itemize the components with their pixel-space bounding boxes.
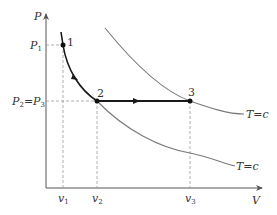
guide-lines <box>46 45 190 188</box>
point-1 <box>61 43 66 48</box>
point-3 <box>188 99 193 104</box>
x-axis-label: V <box>252 195 260 206</box>
x-tick-v3: v3 <box>185 193 196 206</box>
y-tick-p2-p3: P2=P3 <box>12 96 45 109</box>
pv-diagram: P V P1 P2=P3 v1 v2 v3 1 2 3 T=c T=c <box>0 0 277 215</box>
upper-isotherm-label: T=c <box>246 109 269 120</box>
point-2-label: 2 <box>97 88 104 99</box>
x-tick-v1: v1 <box>58 193 69 206</box>
x-tick-v2: v2 <box>92 193 103 206</box>
y-tick-p1: P1 <box>30 40 42 53</box>
lower-isotherm-label: T=c <box>236 161 259 172</box>
lower-isotherm <box>97 101 235 166</box>
point-1-label: 1 <box>67 37 74 48</box>
y-axis-label: P <box>34 11 41 22</box>
point-3-label: 3 <box>188 87 195 98</box>
arrow-icon <box>71 74 78 80</box>
arrow-icon <box>133 98 140 104</box>
